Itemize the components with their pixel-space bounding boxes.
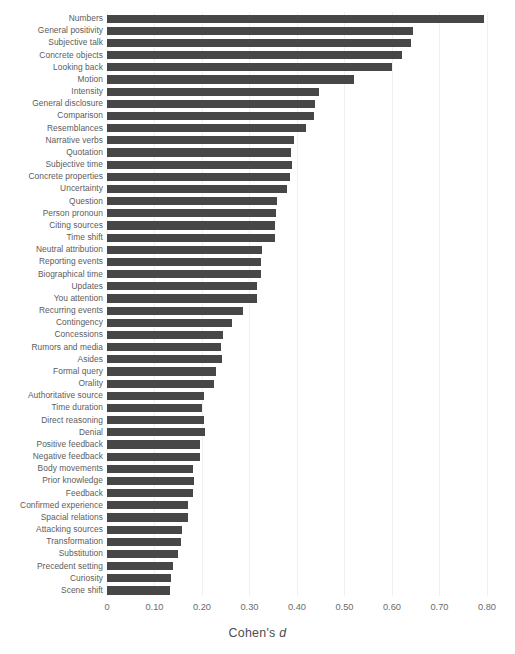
x-tick-label: 0.30	[240, 602, 258, 612]
bar	[107, 343, 221, 351]
bar	[107, 416, 204, 424]
bar	[107, 355, 222, 363]
bar	[107, 392, 204, 400]
x-axis-title-symbol: d	[279, 626, 286, 640]
x-tick-label: 0.70	[430, 602, 448, 612]
bar	[107, 246, 262, 254]
bar	[107, 307, 243, 315]
category-axis-labels: NumbersGeneral positivitySubjective talk…	[0, 12, 103, 596]
x-tick-label: 0.20	[193, 602, 211, 612]
bar	[107, 501, 188, 509]
bar	[107, 294, 257, 302]
plot-area	[107, 12, 505, 596]
bar	[107, 562, 173, 570]
bar	[107, 440, 200, 448]
x-axis-ticks: 00.100.200.300.400.500.600.700.80	[107, 598, 505, 620]
bar	[107, 538, 181, 546]
bar	[107, 428, 205, 436]
bar	[107, 282, 257, 290]
bar	[107, 380, 214, 388]
bar	[107, 550, 178, 558]
bar	[107, 63, 392, 71]
cohens-d-bar-chart: NumbersGeneral positivitySubjective talk…	[0, 0, 515, 654]
bar	[107, 197, 277, 205]
category-label: Scene shift	[0, 584, 103, 597]
bar	[107, 234, 275, 242]
bar	[107, 221, 275, 229]
x-tick-label: 0.80	[478, 602, 496, 612]
bar	[107, 27, 413, 35]
x-axis-title: Cohen's d	[0, 626, 515, 640]
bar	[107, 112, 314, 120]
bar	[107, 100, 315, 108]
bar	[107, 489, 193, 497]
bar	[107, 270, 261, 278]
bar	[107, 586, 170, 594]
bar	[107, 477, 194, 485]
bar	[107, 161, 292, 169]
x-axis-title-text: Cohen's	[228, 626, 279, 640]
bar	[107, 209, 276, 217]
bar	[107, 51, 402, 59]
x-tick-label: 0.60	[383, 602, 401, 612]
bar	[107, 75, 354, 83]
bar	[107, 574, 171, 582]
bar	[107, 453, 200, 461]
bar	[107, 15, 484, 23]
x-tick-label: 0	[104, 602, 109, 612]
bar	[107, 404, 202, 412]
x-tick-label: 0.50	[335, 602, 353, 612]
bar	[107, 124, 306, 132]
bar	[107, 258, 261, 266]
bar	[107, 136, 294, 144]
bar	[107, 513, 188, 521]
bar-rows	[107, 12, 505, 596]
bar	[107, 185, 287, 193]
bar-row	[107, 584, 505, 597]
bar	[107, 367, 216, 375]
bar	[107, 465, 193, 473]
bar	[107, 173, 290, 181]
bar	[107, 331, 223, 339]
bar	[107, 39, 411, 47]
bar	[107, 319, 232, 327]
bar	[107, 88, 319, 96]
bar	[107, 526, 182, 534]
x-tick-label: 0.40	[288, 602, 306, 612]
bar	[107, 148, 291, 156]
x-tick-label: 0.10	[145, 602, 163, 612]
